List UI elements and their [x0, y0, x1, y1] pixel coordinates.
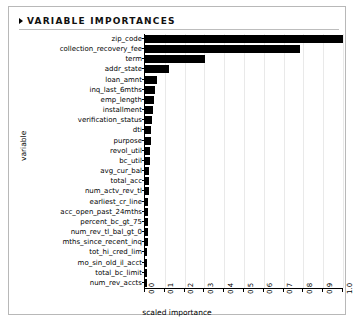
bar[interactable] — [145, 269, 147, 277]
x-axis-title: scaled importance — [9, 308, 345, 317]
x-tick-mark — [184, 288, 185, 292]
x-tick-label: 0.2 — [187, 283, 195, 294]
bar[interactable] — [145, 167, 149, 175]
x-tick-label: 1.0 — [346, 283, 354, 294]
plot-area: zip_codecollection_recovery_feetermaddr_… — [144, 34, 342, 288]
gridline — [343, 34, 344, 288]
bar[interactable] — [145, 218, 148, 226]
bar[interactable] — [145, 279, 147, 287]
x-tick-label: 0.1 — [167, 283, 175, 294]
x-tick-label: 0.6 — [266, 283, 274, 294]
x-axis: 0.00.10.20.30.40.50.60.70.80.91.0 — [144, 288, 343, 289]
triangle-right-icon[interactable] — [19, 18, 23, 24]
y-tick-label: num_rev_accts — [90, 278, 142, 289]
bar[interactable] — [145, 177, 149, 185]
bar[interactable] — [145, 65, 169, 73]
bar[interactable] — [145, 248, 147, 256]
bar[interactable] — [145, 208, 148, 216]
bar[interactable] — [145, 238, 148, 246]
bar[interactable] — [145, 126, 151, 134]
x-tick-mark — [243, 288, 244, 292]
panel-header[interactable]: VARIABLE IMPORTANCES — [19, 14, 176, 28]
bar-series: zip_codecollection_recovery_feetermaddr_… — [145, 34, 342, 288]
bar[interactable] — [145, 116, 152, 124]
bar[interactable] — [145, 198, 148, 206]
bar[interactable] — [145, 76, 157, 84]
x-tick-mark — [164, 288, 165, 292]
bar[interactable] — [145, 228, 148, 236]
x-tick-mark — [263, 288, 264, 292]
x-tick-label: 0.4 — [227, 283, 235, 294]
x-tick-mark — [144, 288, 145, 292]
bar[interactable] — [145, 137, 151, 145]
bar[interactable] — [145, 147, 150, 155]
variable-importances-screenshot: VARIABLE IMPORTANCES variable zip_codeco… — [0, 0, 355, 323]
bar[interactable] — [145, 45, 300, 53]
bar[interactable] — [145, 187, 149, 195]
bar[interactable] — [145, 259, 147, 267]
x-tick-label: 0.7 — [286, 283, 294, 294]
x-tick-mark — [342, 288, 343, 292]
x-tick-label: 0.8 — [306, 283, 314, 294]
x-tick-mark — [322, 288, 323, 292]
panel-title-label: VARIABLE IMPORTANCES — [27, 16, 176, 26]
bar[interactable] — [145, 96, 154, 104]
bar[interactable] — [145, 55, 205, 63]
bar[interactable] — [145, 106, 153, 114]
bar[interactable] — [145, 35, 343, 43]
x-tick-label: 0.5 — [247, 283, 255, 294]
y-axis-title: variable — [19, 131, 28, 161]
bar[interactable] — [145, 157, 150, 165]
variable-importances-panel: VARIABLE IMPORTANCES variable zip_codeco… — [8, 6, 346, 315]
x-tick-mark — [283, 288, 284, 292]
x-tick-mark — [302, 288, 303, 292]
x-tick-label: 0.0 — [148, 283, 156, 294]
x-tick-label: 0.9 — [326, 283, 334, 294]
title-divider — [19, 29, 339, 30]
x-tick-mark — [223, 288, 224, 292]
x-tick-mark — [203, 288, 204, 292]
x-tick-label: 0.3 — [207, 283, 215, 294]
bar[interactable] — [145, 86, 155, 94]
